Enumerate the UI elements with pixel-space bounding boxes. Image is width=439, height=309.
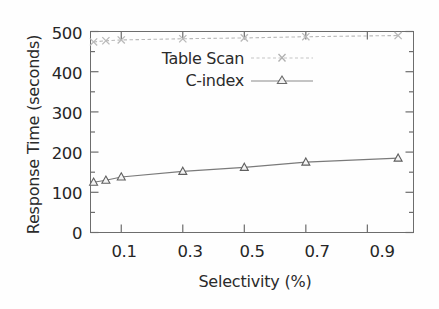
x-tick-label-0.5: 0.5 [224, 242, 280, 261]
x-tick-label-0.1: 0.1 [96, 242, 152, 261]
y-tick-label-300: 300 [22, 104, 82, 123]
x-tick-label-0.7: 0.7 [289, 242, 345, 261]
x-tick-label-0.3: 0.3 [162, 242, 218, 261]
y-tick-label-400: 400 [22, 64, 82, 83]
legend-marker-x-icon [251, 50, 313, 66]
x-tick-label-0.9: 0.9 [354, 242, 410, 261]
chart-figure: Response Time (seconds) Selectivity (%) … [0, 0, 439, 309]
y-tick-label-200: 200 [22, 144, 82, 163]
legend-entry-table-scan: Table Scan [108, 47, 313, 69]
y-tick-label-500: 500 [22, 24, 82, 43]
legend-marker-triangle-icon [251, 72, 313, 88]
legend-entry-c-index: C-index [108, 69, 313, 91]
legend-label-table-scan: Table Scan [162, 49, 244, 68]
legend-label-c-index: C-index [185, 71, 244, 90]
chart-legend: Table Scan C-index [108, 47, 313, 91]
y-tick-label-100: 100 [22, 184, 82, 203]
y-tick-label-0: 0 [22, 224, 82, 243]
